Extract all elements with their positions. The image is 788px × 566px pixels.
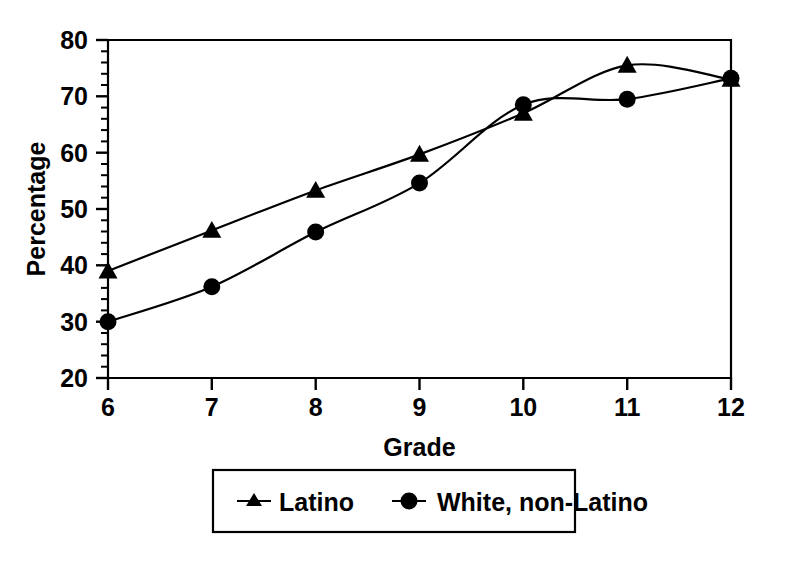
x-tick-label-9: 9 xyxy=(413,393,427,421)
y-tick-label-30: 30 xyxy=(60,308,88,336)
data-point-marker xyxy=(307,224,324,241)
data-point-marker xyxy=(515,96,532,113)
y-tick-label-60: 60 xyxy=(60,139,88,167)
y-tick-label-20: 20 xyxy=(60,364,88,392)
y-tick-label-50: 50 xyxy=(60,195,88,223)
y-tick-label-40: 40 xyxy=(60,251,88,279)
data-point-marker xyxy=(203,278,220,295)
x-tick-label-12: 12 xyxy=(717,393,745,421)
legend-label-white-non-latino: White, non-Latino xyxy=(437,488,648,516)
y-tick-label-70: 70 xyxy=(60,82,88,110)
x-tick-label-10: 10 xyxy=(509,393,537,421)
y-axis-title: Percentage xyxy=(22,142,50,277)
x-tick-label-11: 11 xyxy=(614,393,641,421)
data-point-marker xyxy=(411,175,428,192)
data-point-marker xyxy=(100,313,117,330)
x-axis-title: Grade xyxy=(383,433,455,461)
data-point-marker xyxy=(723,70,740,87)
chart-container: 80 70 60 50 40 30 20 6 7 8 9 10 11 12 Pe… xyxy=(0,0,788,566)
x-tick-label-7: 7 xyxy=(205,393,219,421)
x-tick-label-6: 6 xyxy=(101,393,115,421)
y-tick-label-80: 80 xyxy=(60,26,88,54)
x-tick-label-8: 8 xyxy=(309,393,323,421)
legend-label-latino: Latino xyxy=(279,488,354,516)
line-chart: 80 70 60 50 40 30 20 6 7 8 9 10 11 12 Pe… xyxy=(0,0,788,566)
circle-marker-icon xyxy=(401,493,418,510)
data-point-marker xyxy=(619,91,636,108)
